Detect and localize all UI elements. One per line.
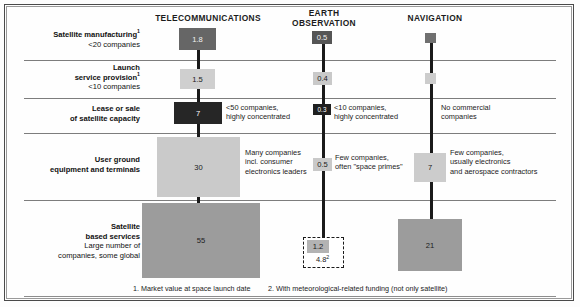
annotation-earth-ground-line1: Few companies, (335, 153, 389, 162)
row-separator-1 (24, 60, 556, 61)
row-label-launch-line2: service provision1 (20, 73, 140, 83)
value-box-telecom-ground: 30 (157, 137, 240, 197)
value-box-earth-launch-label: 0.4 (317, 74, 328, 83)
row-label-satellite-based-services: Satellite based services Large number of… (12, 222, 140, 260)
row-label-satellite-manufacturing-subtitle: <20 companies (20, 40, 140, 50)
column-header-telecom-label: TELECOMMUNICATIONS (155, 13, 261, 23)
row-separator-3 (24, 133, 556, 134)
value-box-earth-services-label: 1.2 (313, 242, 324, 251)
connector-spine-navigation (430, 35, 433, 220)
row-label-lease-or-sale: Lease or sale of satellite capacity (20, 104, 140, 123)
value-box-telecom-services-label: 55 (197, 236, 205, 245)
row-label-satellite-manufacturing: Satellite manufacturing1 <20 companies (20, 30, 140, 49)
annotation-navigation-ground-line3: and aerospace contractors (450, 167, 538, 176)
value-box-telecom-lease: 7 (174, 102, 222, 124)
value-box-navigation-ground: 7 (414, 153, 446, 182)
column-header-navigation: NAVIGATION (385, 14, 485, 24)
row-label-satellite-manufacturing-text: Satellite manufacturing (53, 30, 137, 39)
value-box-earth-manufacturing-label: 0.5 (317, 33, 328, 42)
column-header-earth-line1: EARTH (309, 8, 340, 18)
value-box-telecom-ground-label: 30 (194, 163, 202, 172)
value-box-navigation-services-label: 21 (426, 241, 434, 250)
row-label-ground-line1: User ground (12, 155, 140, 165)
annotation-navigation-ground-line1: Few companies, (450, 148, 504, 157)
annotation-navigation-ground: Few companies, usually electronics and a… (450, 148, 565, 176)
annotation-navigation-ground-line2: usually electronics (450, 157, 510, 166)
earth-services-secondary-text: 4.8 (316, 255, 326, 264)
annotation-navigation-lease-line1: No commercial (441, 103, 490, 112)
value-box-telecom-manufacturing: 1.8 (179, 28, 216, 50)
value-box-navigation-ground-label: 7 (428, 163, 432, 172)
row-label-footnote-mark-1: 1 (137, 28, 140, 34)
annotation-earth-lease-line1: <10 companies, (334, 103, 386, 112)
row-label-services-line2: based services (12, 232, 140, 242)
value-box-telecom-launch-label: 1.5 (192, 75, 203, 84)
column-header-navigation-label: NAVIGATION (408, 13, 463, 23)
value-chain-chart: TELECOMMUNICATIONS EARTH OBSERVATION NAV… (0, 0, 580, 307)
value-box-telecom-manufacturing-label: 1.8 (192, 35, 203, 44)
value-box-telecom-lease-label: 7 (196, 109, 200, 118)
annotation-navigation-lease-line2: companies (441, 112, 477, 121)
annotation-earth-ground-line2: often "space primes" (335, 162, 403, 171)
earth-services-secondary-mark: 2 (326, 254, 329, 260)
value-box-telecom-launch: 1.5 (180, 69, 215, 89)
row-label-user-ground-equipment: User ground equipment and terminals (12, 155, 140, 174)
annotation-navigation-lease: No commercial companies (441, 103, 551, 122)
value-box-navigation-launch (425, 73, 436, 84)
column-header-telecommunications: TELECOMMUNICATIONS (148, 14, 268, 24)
value-box-earth-lease: 0.3 (313, 104, 331, 115)
annotation-telecom-lease-line1: <50 companies, (226, 103, 278, 112)
row-label-satellite-manufacturing-title: Satellite manufacturing1 (20, 30, 140, 40)
value-box-earth-launch: 0.4 (313, 72, 332, 85)
connector-spine-earth-observation (322, 35, 325, 237)
row-separator-2 (24, 98, 556, 99)
row-label-launch-line1: Launch (20, 63, 140, 73)
column-header-earth-observation: EARTH OBSERVATION (278, 9, 370, 28)
annotation-telecom-ground-line1: Many companies (245, 148, 301, 157)
row-separator-4 (24, 200, 556, 201)
value-box-earth-services: 1.2 (307, 240, 329, 253)
row-label-footnote-mark-2: 1 (137, 71, 140, 77)
footnote-separator (24, 296, 556, 297)
value-box-telecom-services: 55 (142, 203, 260, 278)
annotation-earth-lease-line2: highly concentrated (334, 112, 398, 121)
earth-services-secondary-value: 4.82 (316, 255, 329, 264)
value-box-navigation-manufacturing (425, 33, 436, 43)
value-box-earth-manufacturing: 0.5 (312, 31, 332, 44)
value-box-earth-lease-label: 0.3 (318, 106, 327, 113)
value-box-earth-ground-label: 0.5 (317, 160, 328, 169)
row-label-lease-line1: Lease or sale (20, 104, 140, 114)
row-label-services-line1: Satellite (12, 222, 140, 232)
row-label-launch-subtitle: <10 companies (20, 82, 140, 92)
footnote-1-text: 1. Market value at space launch date (133, 284, 250, 293)
row-label-lease-line2: of satellite capacity (20, 114, 140, 124)
annotation-telecom-ground-line3: electronics leaders (245, 167, 307, 176)
footnote-1: 1. Market value at space launch date (133, 284, 250, 293)
row-label-launch-line2-text: service provision (75, 73, 137, 82)
row-label-services-subtitle1: Large number of (12, 241, 140, 251)
figure-root: TELECOMMUNICATIONS EARTH OBSERVATION NAV… (0, 0, 580, 307)
annotation-telecom-lease-line2: highly concentrated (226, 112, 290, 121)
row-label-ground-line2: equipment and terminals (12, 165, 140, 175)
row-label-services-subtitle2: companies, some global (12, 251, 140, 261)
footnote-2-text: 2. With meteorological-related funding (… (268, 284, 447, 293)
row-label-launch-service-provision: Launch service provision1 <10 companies (20, 63, 140, 92)
footnote-2: 2. With meteorological-related funding (… (268, 284, 447, 293)
annotation-telecom-ground-line2: incl. consumer (245, 157, 293, 166)
annotation-earth-lease: <10 companies, highly concentrated (334, 103, 434, 122)
value-box-navigation-services: 21 (398, 219, 462, 271)
value-box-earth-ground: 0.5 (313, 158, 332, 171)
column-header-earth-line2: OBSERVATION (292, 18, 356, 28)
